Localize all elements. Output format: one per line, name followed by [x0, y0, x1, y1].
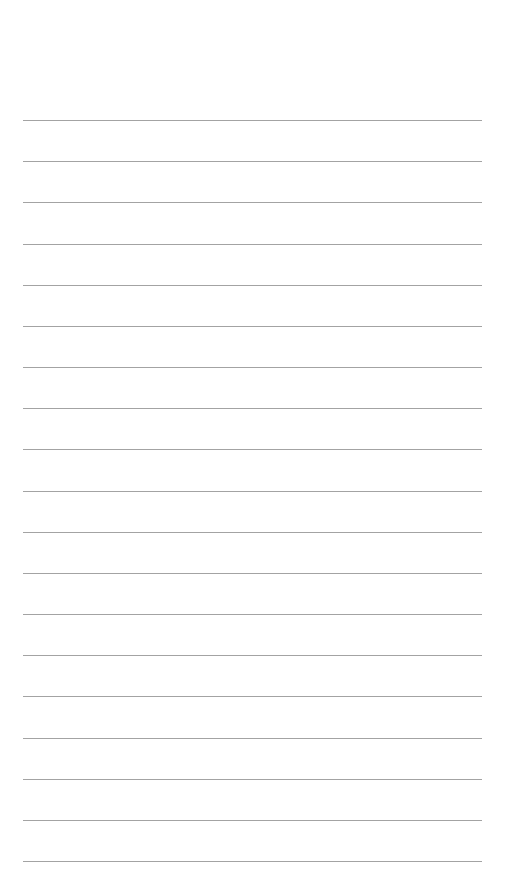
ruled-line — [23, 449, 482, 450]
ruled-page — [0, 0, 529, 885]
ruled-line — [23, 655, 482, 656]
ruled-line — [23, 202, 482, 203]
ruled-line — [23, 285, 482, 286]
ruled-line — [23, 326, 482, 327]
ruled-line — [23, 408, 482, 409]
ruled-line — [23, 820, 482, 821]
ruled-line — [23, 244, 482, 245]
ruled-line — [23, 861, 482, 862]
ruled-line — [23, 573, 482, 574]
ruled-line — [23, 491, 482, 492]
ruled-line — [23, 738, 482, 739]
ruled-line — [23, 367, 482, 368]
ruled-line — [23, 614, 482, 615]
ruled-line — [23, 120, 482, 121]
ruled-line — [23, 161, 482, 162]
ruled-line — [23, 532, 482, 533]
ruled-line — [23, 779, 482, 780]
ruled-line — [23, 696, 482, 697]
